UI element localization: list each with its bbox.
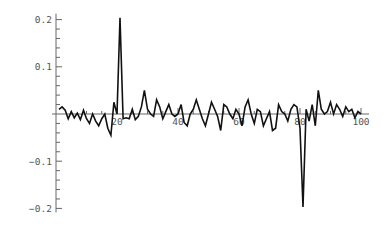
y-tick-label: 0.1 (35, 61, 52, 72)
y-tick-label: 0.2 (35, 14, 52, 25)
y-axis (56, 14, 62, 213)
y-tick-label: −0.2 (29, 203, 52, 214)
y-tick-labels: −0.2−0.10.10.2 (29, 14, 52, 214)
y-tick-label: −0.1 (29, 156, 52, 167)
line-chart: −0.2−0.10.10.2 20406080100 (0, 0, 391, 227)
x-tick-label: 40 (172, 116, 184, 127)
data-series-line (59, 18, 361, 207)
